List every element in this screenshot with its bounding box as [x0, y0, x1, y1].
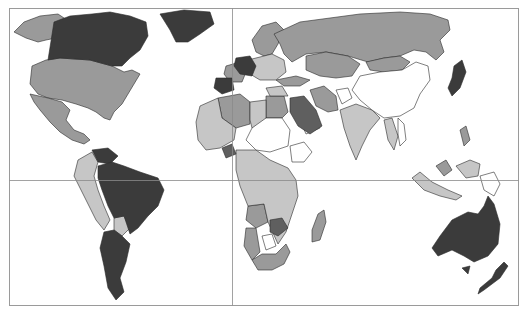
- world-map: [0, 0, 525, 315]
- map-svg: [0, 0, 525, 315]
- region-egypt[interactable]: [266, 96, 288, 118]
